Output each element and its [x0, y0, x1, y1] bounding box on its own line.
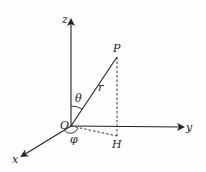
- z-axis-label: z: [61, 13, 68, 26]
- phi-label: φ: [70, 133, 78, 146]
- spherical-coordinates-diagram: z y x O P H r θ φ: [0, 0, 206, 172]
- x-axis-label: x: [12, 153, 19, 166]
- diagram-svg: z y x O P H r θ φ: [0, 0, 206, 172]
- origin-label: O: [60, 119, 69, 132]
- y-axis: [71, 126, 183, 127]
- y-axis-label: y: [185, 121, 193, 134]
- point-h-label: H: [111, 138, 122, 151]
- projection-oh-dashed: [71, 126, 117, 136]
- theta-label: θ: [75, 92, 82, 105]
- radius-label: r: [98, 81, 104, 94]
- theta-arc: [71, 106, 82, 109]
- point-p-label: P: [112, 42, 121, 55]
